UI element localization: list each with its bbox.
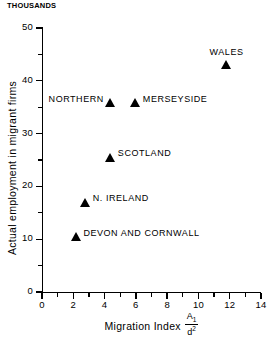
y-tick-minor bbox=[38, 54, 43, 55]
data-point-marker bbox=[71, 232, 81, 241]
x-tick-minor bbox=[120, 293, 121, 298]
y-tick-major bbox=[36, 27, 43, 28]
y-tick-minor bbox=[38, 212, 43, 213]
x-tick-minor bbox=[151, 293, 152, 298]
formula-denominator-exponent: 2 bbox=[192, 325, 196, 332]
x-tick-label: 12 bbox=[220, 300, 240, 310]
x-tick-label: 10 bbox=[188, 300, 208, 310]
y-tick-minor bbox=[38, 107, 43, 108]
formula-denominator: d2 bbox=[185, 325, 198, 337]
data-point-marker bbox=[105, 98, 115, 107]
y-tick-minor bbox=[38, 159, 43, 160]
data-point-marker bbox=[105, 153, 115, 162]
x-axis-title: Migration Index A1 d2 bbox=[42, 313, 261, 338]
data-point-label: MERSEYSIDE bbox=[143, 94, 208, 104]
y-tick-minor bbox=[38, 265, 43, 266]
x-tick-label: 0 bbox=[32, 300, 52, 310]
formula-numerator: A1 bbox=[185, 312, 199, 324]
data-point-label: NORTHERN bbox=[49, 94, 104, 104]
data-point-marker bbox=[80, 198, 90, 207]
scatter-chart: THOUSANDS 01020304050 02468101214 Actual… bbox=[0, 0, 275, 338]
data-point-label: DEVON AND CORNWALL bbox=[83, 228, 199, 238]
units-caption: THOUSANDS bbox=[7, 1, 56, 10]
x-tick-label: 14 bbox=[251, 300, 271, 310]
x-tick-label: 6 bbox=[126, 300, 146, 310]
y-tick-major bbox=[36, 186, 43, 187]
data-point-label: SCOTLAND bbox=[118, 148, 171, 158]
x-tick-minor bbox=[88, 293, 89, 298]
x-axis-title-text: Migration Index bbox=[105, 320, 181, 332]
y-tick-major bbox=[36, 80, 43, 81]
x-tick-label: 8 bbox=[157, 300, 177, 310]
formula-numerator-subscript: 1 bbox=[193, 316, 197, 323]
data-point-marker bbox=[221, 60, 231, 69]
migration-index-formula: A1 d2 bbox=[185, 312, 199, 337]
data-point-label: N. IRELAND bbox=[93, 193, 149, 203]
x-tick-minor bbox=[245, 293, 246, 298]
x-tick-minor bbox=[57, 293, 58, 298]
x-tick-label: 2 bbox=[63, 300, 83, 310]
data-point-marker bbox=[130, 98, 140, 107]
y-axis-title: Actual employment in migrant firms bbox=[6, 43, 18, 293]
data-point-label: WALES bbox=[210, 47, 244, 57]
y-tick-major bbox=[36, 133, 43, 134]
x-tick-minor bbox=[182, 293, 183, 298]
x-tick-minor bbox=[213, 293, 214, 298]
y-tick-major bbox=[36, 239, 43, 240]
x-tick-label: 4 bbox=[95, 300, 115, 310]
y-tick-label: 50 bbox=[11, 22, 33, 32]
